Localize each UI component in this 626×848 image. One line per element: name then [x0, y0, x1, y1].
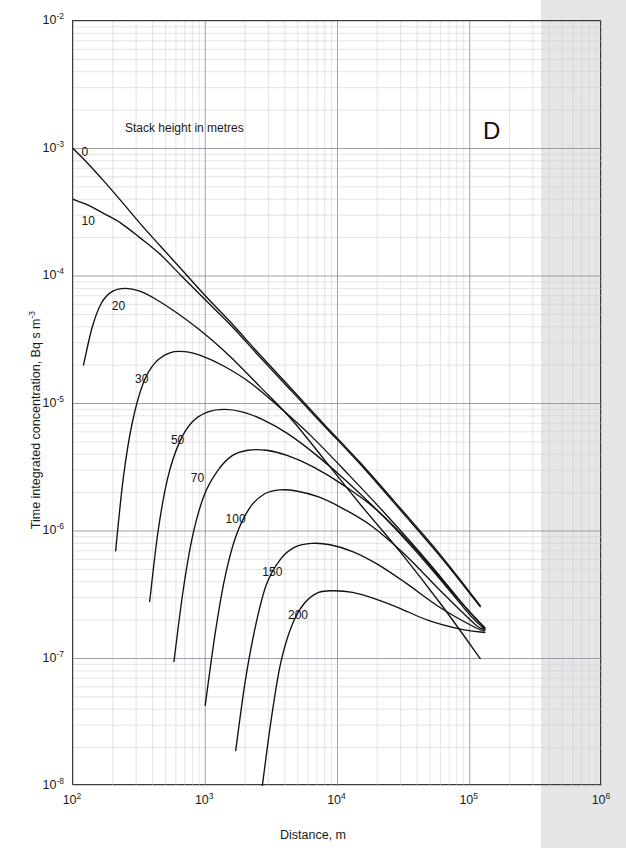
curve-label-150: 150: [262, 565, 282, 579]
y-tick-exponent: -8: [56, 776, 64, 786]
curve-label-10: 10: [82, 214, 95, 228]
curve-label-0: 0: [82, 145, 89, 159]
y-tick-label: 10-8: [28, 776, 64, 792]
y-tick-label: 10-3: [28, 139, 64, 155]
x-tick-mantissa: 10: [459, 793, 473, 807]
y-tick-label: 10-2: [28, 11, 64, 27]
curve-stack-height-20: [83, 288, 480, 658]
y-tick-exponent: -2: [56, 11, 64, 21]
curve-stack-height-30: [116, 351, 485, 627]
y-tick-mantissa: 10: [43, 13, 57, 27]
x-tick-mantissa: 10: [63, 793, 77, 807]
curve-label-30: 30: [135, 372, 148, 386]
x-tick-label: 103: [184, 791, 224, 807]
curve-label-50: 50: [171, 433, 184, 447]
y-axis-label-text: Time integrated concentration, Bq s m: [29, 318, 43, 529]
x-tick-exponent: 6: [606, 791, 611, 801]
x-tick-mantissa: 10: [592, 793, 606, 807]
x-tick-mantissa: 10: [327, 793, 341, 807]
x-tick-mantissa: 10: [195, 793, 209, 807]
y-tick-exponent: -3: [56, 139, 64, 149]
curve-label-20: 20: [112, 299, 125, 313]
curve-stack-height-70: [174, 450, 485, 662]
x-tick-exponent: 4: [341, 791, 346, 801]
curve-label-70: 70: [191, 471, 204, 485]
x-tick-exponent: 2: [77, 791, 82, 801]
x-tick-label: 106: [581, 791, 621, 807]
y-tick-exponent: -5: [56, 394, 64, 404]
grid-lines: [73, 21, 602, 786]
legend-note: Stack height in metres: [125, 121, 244, 135]
y-tick-exponent: -4: [56, 266, 64, 276]
curve-label-200: 200: [288, 608, 308, 622]
y-tick-mantissa: 10: [43, 523, 57, 537]
x-tick-exponent: 5: [473, 791, 478, 801]
y-axis-label: Time integrated concentration, Bq s m-3: [27, 290, 43, 550]
y-tick-exponent: -7: [56, 649, 64, 659]
x-tick-label: 104: [317, 791, 357, 807]
y-tick-mantissa: 10: [43, 651, 57, 665]
y-tick-exponent: -6: [56, 521, 64, 531]
chart-page: 10-210-310-410-510-610-710-8 10210310410…: [0, 0, 626, 848]
x-tick-label: 102: [52, 791, 92, 807]
y-tick-label: 10-7: [28, 649, 64, 665]
x-tick-exponent: 3: [209, 791, 214, 801]
y-tick-mantissa: 10: [43, 396, 57, 410]
x-axis-label: Distance, m: [0, 828, 626, 842]
y-tick-label: 10-4: [28, 266, 64, 282]
y-axis-label-exponent: -3: [27, 311, 37, 319]
curve-label-100: 100: [226, 512, 246, 526]
x-tick-label: 105: [449, 791, 489, 807]
data-curves: [73, 149, 485, 787]
plot-svg: [73, 21, 602, 786]
y-tick-mantissa: 10: [43, 268, 57, 282]
panel-letter: D: [483, 117, 500, 145]
y-tick-mantissa: 10: [43, 141, 57, 155]
